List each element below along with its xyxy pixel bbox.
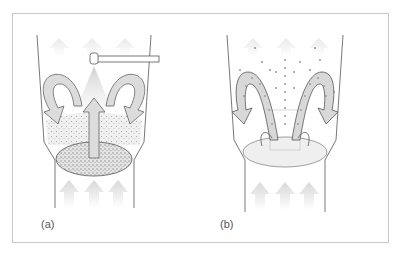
diagram-canvas xyxy=(0,0,400,256)
circulation-arrow-right-b xyxy=(292,72,338,140)
circulation-arrow-left-b xyxy=(232,72,278,140)
distributor-plate-b xyxy=(243,137,327,167)
central-particle-stream xyxy=(275,59,295,125)
panel-label-b: (b) xyxy=(220,218,233,230)
exhaust-air-arrows-b xyxy=(243,38,329,56)
panel-b xyxy=(227,35,343,212)
inlet-air-arrows-b xyxy=(250,182,319,210)
inlet-air-arrows-a xyxy=(59,180,128,208)
panel-label-a: (a) xyxy=(41,218,54,230)
panel-a xyxy=(37,35,159,208)
